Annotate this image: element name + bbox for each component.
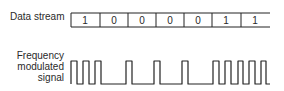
bit-cell: 0 bbox=[167, 15, 173, 26]
bit-cell: 1 bbox=[82, 15, 88, 26]
fm-waveform bbox=[71, 61, 270, 84]
bit-cell: 1 bbox=[252, 15, 258, 26]
bit-cell: 1 bbox=[223, 15, 229, 26]
bit-cell: 0 bbox=[139, 15, 145, 26]
data-stream-bits: 1 0 0 0 0 1 1 bbox=[82, 15, 258, 26]
bit-cell: 0 bbox=[195, 15, 201, 26]
diagram-canvas: 1 0 0 0 0 1 1 bbox=[0, 0, 284, 91]
bit-cell: 0 bbox=[111, 15, 117, 26]
